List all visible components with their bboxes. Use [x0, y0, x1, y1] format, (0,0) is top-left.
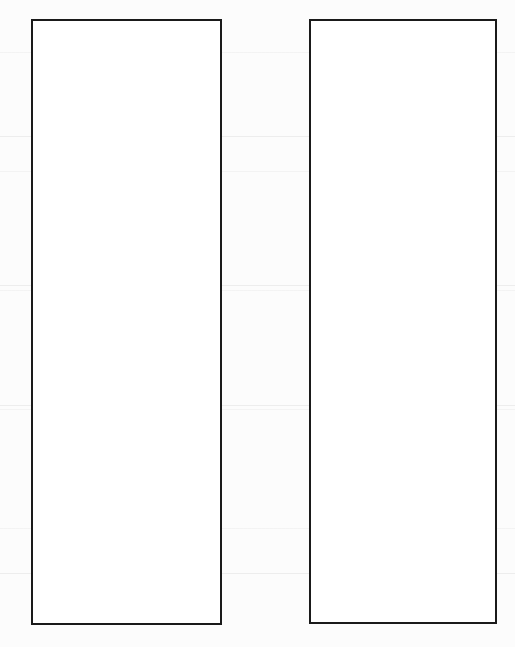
- empty-box-left: [31, 19, 222, 625]
- scanned-page: [0, 0, 515, 647]
- empty-box-right: [309, 19, 497, 624]
